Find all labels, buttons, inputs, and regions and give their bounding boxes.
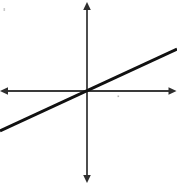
coordinate-plane-svg: [0, 0, 177, 186]
line-segment: [0, 49, 177, 131]
y-axis-arrow-down-icon: [83, 175, 91, 183]
data-series-line-through-origin: [0, 49, 177, 131]
y-axis-arrow-up-icon: [83, 2, 91, 10]
x-axis-arrow-left-icon: [0, 87, 8, 95]
speck-below-x-axis: [118, 96, 120, 98]
line-graph-figure: [0, 0, 177, 186]
speck-top-left: [4, 8, 6, 11]
x-axis-arrow-right-icon: [169, 87, 177, 95]
